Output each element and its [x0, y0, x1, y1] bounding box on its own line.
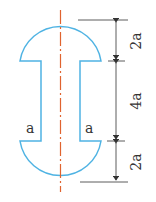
- extension-lines: [78, 20, 128, 182]
- label-left-web: a: [26, 120, 34, 136]
- label-dim-middle: 4a: [128, 92, 144, 109]
- cross-section-diagram: a a 2a 4a 2a: [0, 0, 156, 202]
- label-right-web: a: [85, 120, 93, 136]
- label-dim-bottom: 2a: [128, 153, 144, 170]
- label-dim-top: 2a: [128, 32, 144, 49]
